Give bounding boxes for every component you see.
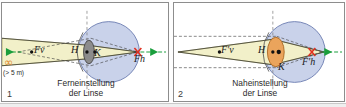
- caption-line-1-panel-2: Naheinstellung: [174, 78, 345, 88]
- panel-number-1: 1: [7, 89, 12, 99]
- object-distance-note: (> 5 m): [3, 69, 24, 76]
- crystalline-lens-flat: [84, 40, 95, 64]
- front-focal-point-marker: [30, 50, 33, 53]
- caption-line-2-panel-2: der Linse: [174, 88, 345, 98]
- figure-root: Fv H K Fh ∞ (> 5 m) Ferneinstellung der …: [0, 0, 346, 107]
- caption-line-1-panel-1: Ferneinstellung: [2, 78, 169, 88]
- crystalline-lens-rounded: [267, 37, 284, 66]
- figure-bottom-edge: [0, 103, 346, 107]
- principal-point-marker: [271, 50, 274, 53]
- axis-arrow-right: [324, 48, 332, 56]
- infinity-icon: ∞: [4, 59, 13, 67]
- caption-line-2-panel-1: der Linse: [2, 88, 169, 98]
- panel-number-2: 2: [178, 89, 183, 99]
- nodal-point-marker: [277, 50, 281, 54]
- incoming-light-cone: [178, 39, 273, 64]
- axis-arrow-right: [150, 48, 158, 56]
- panel-far-accommodation: Fv H K Fh ∞ (> 5 m) Ferneinstellung der …: [1, 2, 169, 102]
- nodal-point-marker: [93, 50, 96, 53]
- front-focal-point-marker: [218, 50, 221, 53]
- principal-point-marker: [85, 50, 88, 53]
- panel-near-accommodation: F'v H K F'h Naheinstellung der Linse 2: [173, 2, 345, 102]
